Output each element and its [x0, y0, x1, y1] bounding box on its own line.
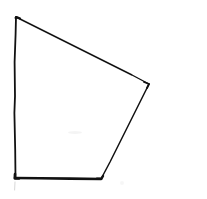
left-edge — [14, 17, 16, 178]
bottom-edge — [15, 178, 101, 179]
vertex-top-left — [16, 17, 20, 19]
paper-smudge — [68, 131, 82, 134]
faint-dot-artifact — [120, 181, 124, 185]
paper-background — [0, 0, 207, 199]
quadrilateral-figure — [0, 0, 207, 199]
drawing-canvas — [0, 0, 207, 199]
